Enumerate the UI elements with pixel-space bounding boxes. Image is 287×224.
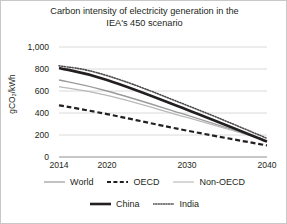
legend-row-1: World OECD Non-OECD [1, 171, 287, 193]
legend-label-china: China [116, 199, 140, 209]
legend-item-india[interactable]: India [153, 199, 199, 209]
legend-label-oecd: OECD [133, 177, 159, 187]
legend-swatch-non-oecd-icon [173, 177, 194, 187]
legend-swatch-oecd-icon [107, 177, 128, 187]
chart-legend: World OECD Non-OECD China [1, 171, 287, 215]
legend-swatch-china-icon [90, 199, 111, 209]
legend-item-oecd[interactable]: OECD [107, 177, 159, 187]
legend-swatch-india-icon [153, 199, 174, 209]
legend-row-2: China India [1, 193, 287, 215]
legend-item-non-oecd[interactable]: Non-OECD [173, 177, 245, 187]
series-line-non-oecd [59, 87, 267, 141]
legend-item-world[interactable]: World [44, 177, 93, 187]
chart-figure: Carbon intensity of electricity generati… [0, 0, 287, 224]
series-lines [59, 66, 267, 146]
series-line-india [59, 66, 267, 139]
legend-swatch-world-icon [44, 177, 65, 187]
legend-label-india: India [179, 199, 199, 209]
legend-item-china[interactable]: China [90, 199, 140, 209]
legend-label-non-oecd: Non-OECD [199, 177, 245, 187]
legend-label-world: World [70, 177, 93, 187]
